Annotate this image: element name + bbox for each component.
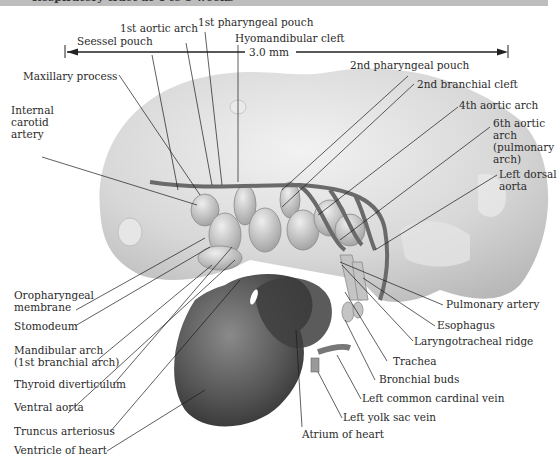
- label-hyomandibular-cleft: Hyomandibular cleft: [235, 32, 345, 44]
- label-1st-pharyngeal-pouch: 1st pharyngeal pouch: [198, 16, 313, 28]
- label-trachea: Trachea: [393, 355, 436, 367]
- label-internal-carotid-artery: Internal carotid artery: [11, 104, 54, 140]
- label-left-common-cardinal-vein: Left common cardinal vein: [362, 392, 504, 404]
- label-4th-aortic-arch: 4th aortic arch: [459, 99, 538, 111]
- label-stomodeum: Stomodeum: [14, 320, 78, 332]
- label-esophagus: Esophagus: [437, 319, 495, 331]
- label-atrium-of-heart: Atrium of heart: [302, 428, 384, 440]
- scale-label: 3.0 mm: [249, 46, 289, 58]
- label-left-yolk-sac-vein: Left yolk sac vein: [343, 411, 436, 423]
- label-2nd-pharyngeal-pouch: 2nd pharyngeal pouch: [350, 59, 469, 71]
- label-seessel-pouch: Seessel pouch: [77, 35, 153, 47]
- label-laryngotracheal-ridge: Laryngotracheal ridge: [414, 335, 533, 347]
- label-left-dorsal-aorta: Left dorsal aorta: [499, 168, 557, 192]
- label-thyroid-diverticulum: Thyroid diverticulum: [14, 378, 126, 390]
- label-maxillary-process: Maxillary process: [23, 70, 118, 82]
- label-mandibular-arch: Mandibular arch (1st branchial arch): [14, 344, 119, 368]
- label-2nd-branchial-cleft: 2nd branchial cleft: [417, 78, 518, 90]
- label-ventral-aorta: Ventral aorta: [14, 401, 84, 413]
- label-truncus-arteriosus: Truncus arteriosus: [14, 425, 115, 437]
- label-bronchial-buds: Bronchial buds: [379, 373, 459, 385]
- label-pulmonary-artery: Pulmonary artery: [446, 298, 539, 310]
- label-6th-aortic-arch: 6th aortic arch (pulmonary arch): [493, 117, 554, 165]
- label-1st-aortic-arch: 1st aortic arch: [120, 22, 198, 34]
- label-ventricle-of-heart: Ventricle of heart: [14, 444, 107, 455]
- label-oropharyngeal-membrane: Oropharyngeal membrane: [14, 289, 94, 313]
